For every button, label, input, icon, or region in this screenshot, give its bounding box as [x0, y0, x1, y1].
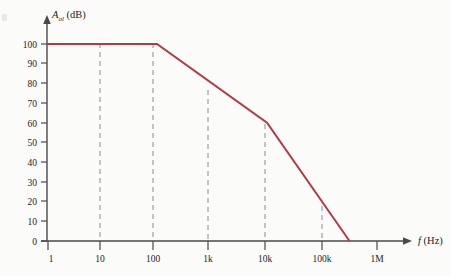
- y-tick-label-20: 20: [28, 197, 38, 207]
- y-tick-label-100: 100: [23, 40, 38, 50]
- y-tick-labels: 0 10 20 30 40 50 60 70 80 90 100: [23, 40, 38, 247]
- y-tick-label-90: 90: [28, 59, 38, 69]
- y-axis-title: Aol (dB): [51, 9, 86, 23]
- y-tick-label-0: 0: [32, 237, 37, 247]
- x-tick-label-100: 100: [146, 254, 161, 264]
- x-tick-label-1M: 1M: [370, 254, 384, 264]
- y-tick-label-60: 60: [28, 119, 38, 129]
- bode-plot-figure: 0 10 20 30 40 50 60 70 80 90 100 Aol (dB…: [0, 0, 451, 276]
- y-tick-label-10: 10: [28, 217, 38, 227]
- x-axis-title: f (Hz): [418, 235, 443, 247]
- x-tick-label-10k: 10k: [258, 254, 273, 264]
- y-axis-unit: (dB): [64, 9, 86, 21]
- y-tick-label-50: 50: [28, 138, 38, 148]
- x-tick-label-100k: 100k: [313, 254, 332, 264]
- y-axis: [41, 15, 51, 241]
- x-axis-arrowhead: [403, 237, 412, 245]
- y-tick-label-30: 30: [28, 178, 38, 188]
- open-loop-gain-curve: [47, 44, 350, 241]
- y-tick-label-80: 80: [28, 79, 38, 89]
- x-tick-label-1k: 1k: [203, 254, 213, 264]
- y-tick-label-40: 40: [28, 158, 38, 168]
- y-tick-label-70: 70: [28, 99, 38, 109]
- plot-grid: [100, 43, 322, 241]
- x-axis: [41, 237, 412, 250]
- x-axis-unit: (Hz): [421, 235, 443, 247]
- x-tick-labels: 1 10 100 1k 10k 100k 1M: [49, 254, 385, 264]
- y-axis-arrowhead: [43, 15, 51, 24]
- x-tick-label-1: 1: [49, 254, 54, 264]
- x-tick-label-10: 10: [95, 254, 105, 264]
